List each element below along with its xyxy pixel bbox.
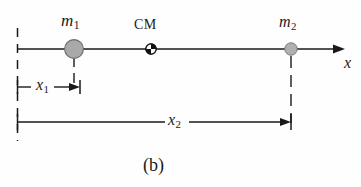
center-of-mass-marker	[146, 44, 156, 54]
mass-m2-circle	[285, 43, 297, 55]
center-of-mass-diagram: m1 CM m2 x x1 x2 (b)	[0, 0, 361, 187]
x1-distance-label: x1	[36, 77, 49, 95]
x2-arrowhead	[280, 118, 291, 126]
x1-arrowhead	[69, 83, 80, 91]
mass-m1-circle	[65, 40, 84, 59]
x2-dimension	[18, 114, 292, 130]
diagram-canvas	[0, 0, 361, 187]
center-of-mass-label: CM	[134, 18, 156, 32]
x-axis-arrowhead	[333, 44, 345, 53]
panel-caption: (b)	[143, 156, 164, 174]
mass-m1-label: m1	[61, 12, 79, 32]
x-axis-label: x	[344, 55, 351, 71]
x2-distance-label: x2	[168, 112, 181, 130]
mass-m2-label: m2	[279, 14, 296, 32]
